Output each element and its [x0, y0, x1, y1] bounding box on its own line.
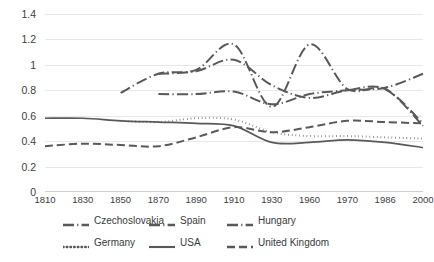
legend-swatch-dashed-icon: [227, 238, 253, 248]
series-line-usa: [45, 118, 423, 147]
legend-item-usa[interactable]: USA: [149, 237, 209, 249]
y-tick-label: 1.2: [21, 34, 36, 45]
legend-item-germany[interactable]: Germany: [63, 237, 127, 249]
legend-row-2: Germany USA United Kingdom: [45, 232, 429, 254]
legend-label: Spain: [180, 215, 206, 227]
x-tick-label: 1970: [337, 194, 358, 206]
y-tick-label: 0.4: [21, 136, 36, 147]
series-container: [45, 14, 423, 192]
x-tick-label: 1830: [72, 194, 93, 206]
legend-swatch-dotted-icon: [63, 238, 89, 248]
y-tick-label: 0.6: [21, 110, 36, 121]
legend-item-united-kingdom[interactable]: United Kingdom: [227, 237, 287, 249]
legend-swatch-dash-dot-icon: [227, 216, 253, 226]
x-tick-label: 1930: [261, 194, 282, 206]
x-tick-label: 1960: [299, 194, 320, 206]
chart-legend: Czechoslovakia Spain Hungary Germany USA: [45, 210, 429, 258]
series-line-united-kingdom: [45, 121, 423, 147]
legend-swatch-dash-dot-icon: [149, 216, 175, 226]
y-tick-label: 1.4: [21, 9, 36, 20]
plot-area: [45, 14, 423, 192]
series-line-spain: [121, 44, 423, 124]
x-tick-label: 2000: [412, 194, 433, 206]
y-axis-labels: 1.4 1.2 1 0.8 0.6 0.4 0.2 0: [0, 0, 40, 192]
x-tick-label: 1850: [110, 194, 131, 206]
legend-item-czechoslovakia[interactable]: Czechoslovakia: [63, 215, 127, 227]
x-tick-label: 1890: [186, 194, 207, 206]
legend-swatch-solid-icon: [149, 238, 175, 248]
legend-swatch-dash-dot-icon: [63, 216, 89, 226]
x-axis-labels: 1810 1830 1850 1870 1890 1910 1930 1960 …: [45, 194, 423, 210]
x-tick-label: 1986: [375, 194, 396, 206]
x-tick-label: 1870: [148, 194, 169, 206]
y-tick-label: 0.8: [21, 85, 36, 96]
line-chart: 1.4 1.2 1 0.8 0.6 0.4 0.2 0 1810 1830 18…: [0, 0, 434, 262]
x-tick-label: 1910: [223, 194, 244, 206]
legend-row-1: Czechoslovakia Spain Hungary: [45, 210, 429, 232]
y-tick-label: 1: [30, 60, 36, 71]
legend-item-hungary[interactable]: Hungary: [227, 215, 287, 227]
legend-item-spain[interactable]: Spain: [149, 215, 209, 227]
legend-label: United Kingdom: [258, 237, 329, 249]
legend-label: Hungary: [258, 215, 296, 227]
y-tick-label: 0.2: [21, 161, 36, 172]
legend-label: USA: [180, 237, 201, 249]
legend-label: Germany: [94, 237, 135, 249]
x-tick-label: 1810: [34, 194, 55, 206]
